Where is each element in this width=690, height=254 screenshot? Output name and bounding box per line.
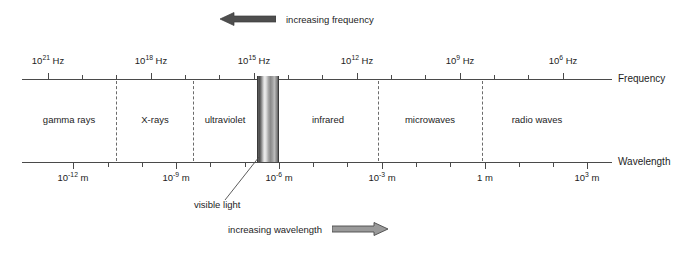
wavelength-tick: [210, 163, 211, 167]
visible-light-leader-line: [220, 155, 280, 203]
wavelength-axis-label: Wavelength: [618, 156, 670, 167]
increasing-frequency-label: increasing frequency: [286, 14, 374, 25]
band-separator: [482, 81, 483, 161]
wavelength-tick: [176, 163, 177, 169]
wavelength-tick: [142, 163, 143, 167]
visible-light-band: [257, 76, 279, 162]
wavelength-tick: [519, 163, 520, 167]
frequency-axis-line: [22, 79, 612, 80]
arrow-right-icon: [332, 222, 388, 236]
frequency-tick-label: 1015 Hz: [238, 55, 270, 66]
frequency-tick-label: 106 Hz: [549, 55, 578, 66]
frequency-axis-label: Frequency: [618, 73, 665, 84]
frequency-tick-label: 109 Hz: [446, 55, 475, 66]
increasing-frequency-annotation: increasing frequency: [220, 12, 374, 26]
wavelength-tick: [553, 163, 554, 167]
increasing-wavelength-annotation: increasing wavelength: [228, 222, 388, 236]
frequency-tick-label: 1018 Hz: [135, 55, 167, 66]
electromagnetic-spectrum-diagram: increasing frequency 1021 Hz 1018 Hz 101…: [0, 0, 690, 254]
wavelength-tick-label: 103 m: [575, 172, 600, 183]
visible-light-callout-label: visible light: [194, 199, 240, 210]
arrow-left-icon: [220, 12, 276, 26]
wavelength-tick: [73, 163, 74, 169]
wavelength-tick: [485, 163, 486, 169]
frequency-tick-label: 1021 Hz: [32, 55, 64, 66]
wavelength-tick: [587, 163, 588, 169]
band-label-x-rays: X-rays: [141, 114, 168, 125]
wavelength-tick: [347, 163, 348, 167]
band-label-gamma-rays: gamma rays: [43, 114, 95, 125]
wavelength-tick: [416, 163, 417, 167]
band-label-microwaves: microwaves: [405, 114, 455, 125]
band-label-radio-waves: radio waves: [512, 114, 563, 125]
increasing-wavelength-label: increasing wavelength: [228, 224, 322, 235]
band-separator: [193, 81, 194, 161]
wavelength-tick-label: 10-12 m: [58, 172, 89, 183]
wavelength-tick-label: 1 m: [477, 172, 493, 183]
band-label-infrared: infrared: [312, 114, 344, 125]
wavelength-tick: [108, 163, 109, 167]
wavelength-tick: [450, 163, 451, 167]
wavelength-tick-label: 10-3 m: [368, 172, 395, 183]
band-label-ultraviolet: ultraviolet: [205, 114, 246, 125]
band-separator: [116, 81, 117, 161]
wavelength-tick-label: 10-9 m: [162, 172, 189, 183]
wavelength-tick: [382, 163, 383, 169]
wavelength-tick: [313, 163, 314, 167]
band-separator: [378, 81, 379, 161]
wavelength-axis-line: [22, 162, 612, 163]
frequency-tick-label: 1012 Hz: [341, 55, 373, 66]
